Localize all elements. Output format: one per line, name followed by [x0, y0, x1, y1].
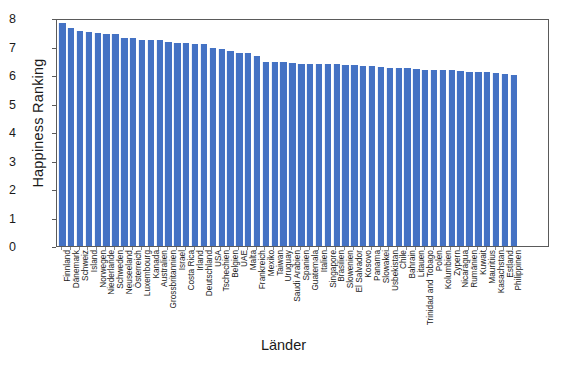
- x-tick-label: Singapore: [330, 250, 336, 288]
- bar: [253, 56, 260, 246]
- x-tick-label: Rumänien: [471, 250, 477, 288]
- bar: [315, 64, 322, 246]
- x-tick-label: Kolumbien: [445, 250, 451, 289]
- bar: [191, 44, 198, 246]
- bar: [350, 65, 357, 246]
- x-tick-label: Panama: [374, 250, 380, 281]
- x-tick-label: Mexiko: [268, 250, 274, 276]
- x-tick-label: Saudi Arabien: [294, 250, 300, 302]
- x-tick-label: Frankreich: [259, 250, 265, 289]
- x-tick-label: Deutschland: [206, 250, 212, 296]
- bar: [324, 64, 331, 246]
- bar: [85, 32, 92, 246]
- bar: [218, 49, 225, 246]
- bar: [164, 42, 171, 246]
- y-tick-mark: [52, 247, 56, 248]
- bar: [226, 51, 233, 247]
- bar: [244, 53, 251, 246]
- x-tick-label: Finnland: [64, 250, 70, 282]
- bar: [156, 40, 163, 246]
- bar: [306, 64, 313, 246]
- y-tick-label: 8: [0, 12, 16, 26]
- bar: [403, 68, 410, 246]
- x-tick-label: Mauritius: [489, 250, 495, 284]
- x-tick-label: Israel: [179, 250, 185, 270]
- bar: [386, 68, 393, 246]
- x-tick-label: Kuwait: [480, 250, 486, 275]
- x-tick-label: Dänemark: [73, 250, 79, 288]
- x-tick-label: Niederlande: [108, 250, 114, 295]
- bar: [120, 38, 127, 246]
- bar: [465, 72, 472, 246]
- y-axis-title: Happiness Ranking: [30, 23, 46, 223]
- x-tick-label: Kosovo: [365, 250, 371, 278]
- bar: [501, 74, 508, 246]
- x-tick-label: Schweden: [117, 250, 123, 289]
- x-tick-label: Irland: [197, 250, 203, 271]
- y-tick-label: 6: [0, 69, 16, 83]
- x-tick-label: Luxembourg: [144, 250, 150, 296]
- bar: [456, 71, 463, 246]
- bar: [76, 31, 83, 246]
- x-tick-label: Taiwan: [277, 250, 283, 276]
- bar: [297, 64, 304, 246]
- x-tick-label: Australien: [161, 250, 167, 287]
- bar: [510, 75, 517, 246]
- bar: [368, 66, 375, 246]
- bar: [341, 65, 348, 246]
- bar: [173, 43, 180, 246]
- x-tick-label: Trinidad and Tobago: [427, 250, 433, 325]
- bar: [182, 43, 189, 246]
- x-tick-label: Uruguay: [285, 250, 291, 281]
- y-tick-label: 0: [0, 240, 16, 254]
- x-tick-label: Slowenien: [347, 250, 353, 288]
- bar: [483, 72, 490, 246]
- x-tick-label: Kasachstan: [498, 250, 504, 293]
- x-tick-label: Usbekistan: [392, 250, 398, 291]
- x-tick-label: Brasilien: [338, 250, 344, 282]
- bar: [279, 62, 286, 246]
- x-tick-label: Norwegen: [100, 250, 106, 288]
- bar: [102, 34, 109, 246]
- x-tick-label: Slowakei: [383, 250, 389, 283]
- x-tick-label: Spanien: [303, 250, 309, 280]
- bar: [111, 34, 118, 246]
- x-tick-label: Österreich: [135, 250, 141, 288]
- x-tick-label: Chile: [400, 250, 406, 269]
- bar: [94, 33, 101, 246]
- bar: [147, 40, 154, 246]
- bar: [129, 38, 136, 246]
- x-tick-label: Neuseeland: [126, 250, 132, 294]
- bar: [359, 66, 366, 246]
- bar: [288, 63, 295, 246]
- x-tick-label: Guatemala: [312, 250, 318, 291]
- x-tick-label: El Salvador: [356, 250, 362, 292]
- x-tick-label: Island: [91, 250, 97, 272]
- x-tick-label: Zypern: [454, 250, 460, 276]
- bar: [377, 67, 384, 246]
- y-tick-label: 1: [0, 212, 16, 226]
- x-tick-label: Estland: [507, 250, 513, 278]
- bar: [333, 64, 340, 246]
- x-tick-label: Malta: [250, 250, 256, 270]
- x-tick-label: UAE: [241, 250, 247, 267]
- bar: [262, 62, 269, 246]
- plot-area: [56, 19, 549, 247]
- x-tick-label: Kanada: [153, 250, 159, 279]
- x-axis-title: Länder: [0, 337, 567, 353]
- x-tick-label: Tschechien: [223, 250, 229, 292]
- x-tick-label: Grossbritannien: [170, 250, 176, 309]
- y-tick-label: 2: [0, 183, 16, 197]
- bar: [448, 70, 455, 246]
- bar: [421, 70, 428, 246]
- x-tick-label: Belgien: [232, 250, 238, 278]
- x-tick-label: Costa Rica: [188, 250, 194, 291]
- bar: [271, 62, 278, 246]
- y-tick-label: 5: [0, 98, 16, 112]
- bar: [395, 68, 402, 246]
- chart-figure: Happiness Ranking 012345678 FinnlandDäne…: [0, 0, 567, 369]
- bar: [474, 72, 481, 246]
- y-tick-label: 4: [0, 126, 16, 140]
- bar: [412, 69, 419, 246]
- x-tick-label: USA: [215, 250, 221, 267]
